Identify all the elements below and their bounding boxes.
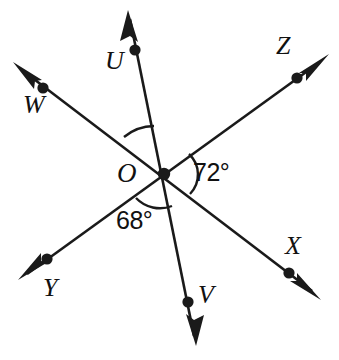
angle-arc-WOU [124, 126, 154, 137]
point-label-Y: Y [43, 275, 57, 301]
arrowhead-V [186, 314, 204, 346]
point-label-W: W [23, 92, 45, 118]
point-label-V: V [198, 282, 214, 308]
angle-diagram-figure: U W Z X Y V O 72° 68° [0, 0, 339, 360]
dot-point-U [129, 44, 140, 55]
line-segment-YZ [27, 62, 320, 274]
dot-point-X [283, 267, 294, 278]
point-label-X: X [285, 233, 301, 259]
arrowhead-U [120, 10, 138, 42]
dot-point-Y [41, 253, 52, 264]
vertex-label-O: O [117, 160, 137, 187]
arrowhead-Z [299, 54, 329, 81]
dot-point-V [182, 296, 193, 307]
angle-measure-label-72: 72° [193, 160, 229, 185]
dot-point-Z [291, 72, 302, 83]
arrowhead-W [13, 62, 42, 89]
point-label-U: U [105, 48, 124, 74]
line-segment-WX [22, 70, 312, 291]
dot-vertex-O [158, 168, 170, 180]
angle-measure-label-68: 68° [116, 208, 152, 233]
point-label-Z: Z [276, 33, 290, 59]
